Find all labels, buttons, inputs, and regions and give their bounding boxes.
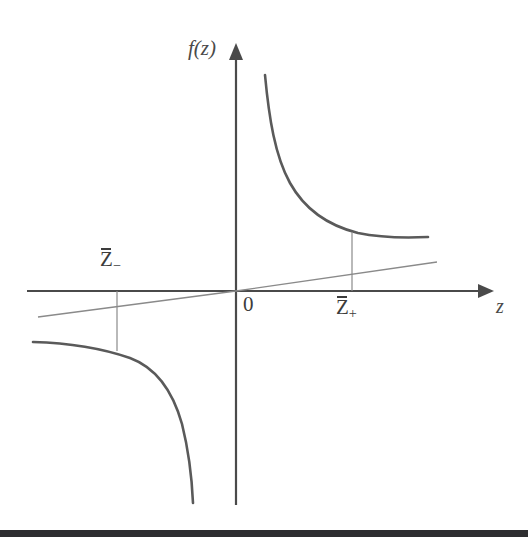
origin-label: 0 <box>243 294 254 315</box>
overbar-plus <box>337 296 347 298</box>
z-minus-barred-glyph: Z <box>100 249 113 270</box>
z-plus-barred-glyph: Z <box>336 297 349 318</box>
y-axis-label: f(z) <box>188 36 216 61</box>
hyperbola-upper-branch <box>265 75 428 238</box>
hyperbola-lower-branch <box>33 342 193 503</box>
straight-line-through-origin <box>38 262 437 317</box>
overbar-minus <box>101 248 111 250</box>
page-edge-bar <box>0 530 528 537</box>
z-minus-letter: Z <box>100 249 113 270</box>
plot-area <box>0 0 528 537</box>
z-plus-label: Z + <box>336 297 357 320</box>
z-plus-letter: Z <box>336 297 349 318</box>
z-plus-subscript: + <box>349 305 357 321</box>
z-minus-label: Z − <box>100 249 121 272</box>
y-axis-arrowhead <box>229 43 243 60</box>
z-minus-subscript: − <box>113 257 121 273</box>
x-axis-label: z <box>496 295 504 318</box>
figure-canvas: f(z) z 0 Z − Z + <box>0 0 528 537</box>
x-axis-arrowhead <box>478 284 494 298</box>
